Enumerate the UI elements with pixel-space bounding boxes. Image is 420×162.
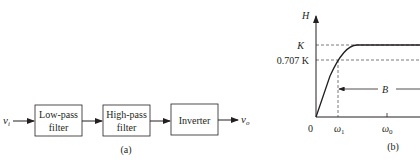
block-diagram: vi Low-pass filter High-pass filter Inve… (3, 104, 250, 156)
low-pass-label: Low-pass (39, 109, 78, 120)
caption-a: (a) (120, 144, 131, 156)
high-pass-label-2: filter (117, 122, 137, 133)
output-label: vo (241, 113, 250, 127)
input-label: vi (3, 114, 10, 128)
y-tick-0707k: 0.707 K (277, 55, 310, 66)
bandwidth-label: B (382, 84, 388, 95)
high-pass-label: High-pass (106, 109, 147, 120)
response-curve (316, 45, 420, 117)
frequency-response-plot: H K 0.707 K B 0 ω1 ω0 (b) (277, 10, 420, 153)
y-axis-label: H (301, 10, 310, 21)
y-tick-k: K (296, 40, 305, 51)
x-tick-omega1: ω1 (334, 123, 345, 136)
low-pass-label-2: filter (49, 122, 69, 133)
caption-b: (b) (387, 141, 399, 153)
inverter-label: Inverter (179, 115, 211, 126)
x-tick-zero: 0 (308, 123, 313, 134)
x-tick-omega0: ω0 (382, 123, 393, 136)
diagram-canvas: vi Low-pass filter High-pass filter Inve… (0, 0, 420, 162)
